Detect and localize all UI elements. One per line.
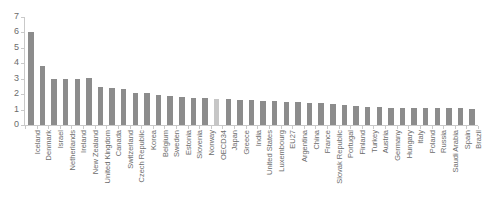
bar[interactable]: [353, 106, 358, 125]
bar[interactable]: [226, 99, 231, 125]
bar[interactable]: [40, 66, 45, 125]
bar-slot[interactable]: [249, 17, 254, 125]
bar[interactable]: [109, 88, 114, 125]
bar[interactable]: [365, 107, 370, 126]
bar-slot[interactable]: [458, 17, 463, 125]
bar-slot[interactable]: [237, 17, 242, 125]
x-tick-mark: [432, 126, 433, 129]
bar[interactable]: [307, 103, 312, 125]
x-tick-label: Switzerland: [127, 130, 135, 169]
bar-slot[interactable]: [28, 17, 33, 125]
bar-slot[interactable]: [156, 17, 161, 125]
bar-slot[interactable]: [226, 17, 231, 125]
bar-slot[interactable]: [400, 17, 405, 125]
bar[interactable]: [202, 98, 207, 125]
x-tick-mark: [327, 126, 328, 129]
x-tick-label: Hungary: [406, 130, 414, 158]
bar-slot[interactable]: [307, 17, 312, 125]
bar-slot[interactable]: [133, 17, 138, 125]
x-tick-mark: [164, 126, 165, 129]
bar[interactable]: [318, 103, 323, 125]
bar[interactable]: [51, 79, 56, 125]
x-tick-mark: [350, 126, 351, 129]
bar-slot[interactable]: [342, 17, 347, 125]
bar-slot[interactable]: [86, 17, 91, 125]
bar[interactable]: [167, 96, 172, 125]
y-tick-label: 4: [14, 58, 19, 67]
bar-slot[interactable]: [214, 17, 219, 125]
x-tick-mark: [408, 126, 409, 129]
bar-slot[interactable]: [179, 17, 184, 125]
x-tick-mark: [443, 126, 444, 129]
bar-slot[interactable]: [469, 17, 474, 125]
bar[interactable]: [179, 97, 184, 125]
bar[interactable]: [133, 93, 138, 125]
bar[interactable]: [237, 100, 242, 125]
bar-slot[interactable]: [388, 17, 393, 125]
bar-slot[interactable]: [144, 17, 149, 125]
x-tick-label: Estonia: [185, 130, 193, 155]
bar-slot[interactable]: [40, 17, 45, 125]
bar-slot[interactable]: [423, 17, 428, 125]
bar[interactable]: [272, 101, 277, 125]
bar-slot[interactable]: [284, 17, 289, 125]
bar[interactable]: [295, 102, 300, 125]
bar-slot[interactable]: [435, 17, 440, 125]
bar-slot[interactable]: [202, 17, 207, 125]
bar[interactable]: [144, 93, 149, 125]
bar[interactable]: [458, 108, 463, 125]
bar-slot[interactable]: [109, 17, 114, 125]
y-tick-mark: [21, 94, 24, 95]
bar[interactable]: [435, 108, 440, 125]
bar[interactable]: [388, 108, 393, 125]
x-tick-label: Japan: [231, 130, 239, 150]
bar-slot[interactable]: [75, 17, 80, 125]
bar[interactable]: [400, 108, 405, 125]
bar-slot[interactable]: [51, 17, 56, 125]
bar[interactable]: [469, 109, 474, 125]
bar-slot[interactable]: [411, 17, 416, 125]
bar-slot[interactable]: [167, 17, 172, 125]
bar[interactable]: [284, 102, 289, 125]
bar[interactable]: [377, 107, 382, 125]
bar[interactable]: [411, 108, 416, 125]
x-tick-mark: [83, 126, 84, 129]
bar[interactable]: [75, 79, 80, 125]
bar-slot[interactable]: [295, 17, 300, 125]
bar[interactable]: [342, 105, 347, 125]
bar[interactable]: [156, 95, 161, 125]
y-tick-mark: [21, 17, 24, 18]
bar[interactable]: [86, 78, 91, 125]
bar[interactable]: [98, 87, 103, 125]
bar[interactable]: [423, 108, 428, 125]
y-tick-label: 2: [14, 89, 19, 98]
bar-slot[interactable]: [260, 17, 265, 125]
y-tick-mark: [21, 125, 24, 126]
bar[interactable]: [446, 108, 451, 125]
bar-slot[interactable]: [446, 17, 451, 125]
bar-slot[interactable]: [121, 17, 126, 125]
bar[interactable]: [330, 104, 335, 125]
x-tick-label: United States: [266, 130, 274, 175]
bar-slot[interactable]: [353, 17, 358, 125]
bar-slot[interactable]: [272, 17, 277, 125]
bar-slot[interactable]: [365, 17, 370, 125]
bar-slot[interactable]: [377, 17, 382, 125]
x-tick-mark: [222, 126, 223, 129]
bar-slot[interactable]: [98, 17, 103, 125]
bar[interactable]: [121, 89, 126, 125]
bar[interactable]: [28, 32, 33, 125]
bar-slot[interactable]: [318, 17, 323, 125]
x-tick-label: Portugal: [347, 130, 355, 158]
bar-slot[interactable]: [63, 17, 68, 125]
bar[interactable]: [191, 98, 196, 125]
y-tick-label: 1: [14, 105, 19, 114]
bar[interactable]: [63, 79, 68, 125]
x-tick-label: Italy: [417, 130, 425, 144]
bar[interactable]: [249, 100, 254, 125]
bar[interactable]: [260, 101, 265, 125]
x-tick-mark: [304, 126, 305, 129]
bar[interactable]: [214, 99, 219, 125]
bar-slot[interactable]: [330, 17, 335, 125]
bar-slot[interactable]: [191, 17, 196, 125]
